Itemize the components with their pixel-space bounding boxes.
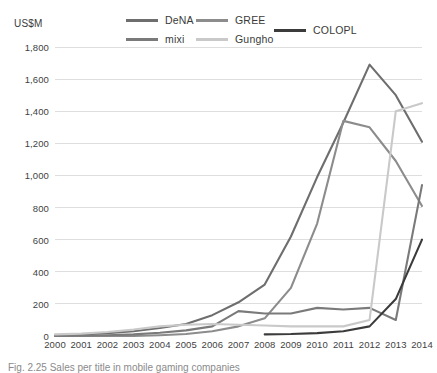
x-axis-tick-labels: 2000200120022003200420052006200720082009… [55,339,422,355]
series-lines [55,47,422,336]
legend-item-dena[interactable]: DeNA [126,14,194,26]
legend-swatch-colopl [274,29,306,32]
x-tick-label: 2014 [411,339,433,350]
y-tick-label: 1,600 [25,74,49,85]
x-tick-label: 2000 [44,339,66,350]
x-tick-label: 2006 [202,339,224,350]
legend-swatch-mixi [126,38,158,41]
x-tick-label: 2007 [228,339,250,350]
y-tick-label: 400 [33,266,49,277]
chart-legend: DeNA GREE mixi Gungho COLOPL [118,12,358,52]
legend-label-colopl: COLOPL [313,24,357,36]
y-tick-label: 1,400 [25,106,49,117]
y-tick-label: 1,200 [25,138,49,149]
series-line-gree [55,121,422,336]
figure-caption: Fig. 2.25 Sales per title in mobile gami… [8,362,437,373]
legend-swatch-dena [126,19,158,22]
chart-figure: US$M DeNA GREE mixi Gungho COLOPL 1,8001… [0,0,437,373]
plot-area [55,47,422,336]
y-axis-title: US$M [14,18,43,29]
x-tick-label: 2012 [359,339,381,350]
x-tick-label: 2001 [70,339,92,350]
legend-item-gungho[interactable]: Gungho [196,33,274,45]
x-tick-label: 2008 [254,339,276,350]
legend-label-gree: GREE [235,14,266,26]
legend-item-mixi[interactable]: mixi [126,33,184,45]
x-tick-label: 2004 [149,339,171,350]
x-tick-label: 2013 [385,339,407,350]
series-line-gungho [55,103,422,334]
series-line-dena [55,65,422,336]
series-line-colopl [265,240,422,335]
x-tick-label: 2009 [280,339,302,350]
legend-item-gree[interactable]: GREE [196,14,266,26]
legend-label-dena: DeNA [165,14,194,26]
legend-label-gungho: Gungho [235,33,274,45]
x-tick-label: 2010 [306,339,328,350]
legend-swatch-gree [196,19,228,22]
y-tick-label: 200 [33,298,49,309]
x-tick-label: 2011 [333,339,354,350]
y-tick-label: 800 [33,202,49,213]
series-line-mixi [55,185,422,336]
legend-label-mixi: mixi [165,33,184,45]
legend-swatch-gungho [196,38,228,41]
y-axis-tick-labels: 1,8001,6001,4001,2001,0008006004002000 [0,47,49,336]
y-tick-label: 1,800 [25,42,49,53]
x-tick-label: 2002 [97,339,119,350]
y-tick-label: 600 [33,234,49,245]
x-tick-label: 2005 [175,339,197,350]
legend-item-colopl[interactable]: COLOPL [274,24,357,36]
y-tick-label: 1,000 [25,170,49,181]
x-tick-label: 2003 [123,339,145,350]
